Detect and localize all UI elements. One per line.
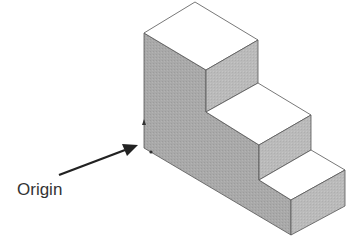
step-block-diagram [0, 0, 358, 237]
origin-label: Origin [17, 181, 62, 198]
origin-arrow [59, 144, 138, 175]
